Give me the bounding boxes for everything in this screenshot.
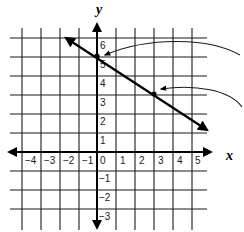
- x-tick-labels: −4 −3 −2 −1 0 1 2 3 4 5: [25, 155, 201, 166]
- x-tick-label: 1: [120, 155, 126, 166]
- x-axis-title: x: [225, 148, 233, 163]
- plotted-line: [66, 38, 207, 130]
- y-tick-label: 6: [100, 40, 106, 51]
- point-on-line: [151, 91, 156, 96]
- x-tick-label: 0: [100, 155, 106, 166]
- x-tick-label: −4: [25, 155, 37, 166]
- y-tick-label: 2: [100, 116, 106, 127]
- x-tick-label: 4: [177, 155, 183, 166]
- graph-svg: y x −4 −3 −2 −1 0 1 2 3 4 5 6 5 4 3 2 1 …: [0, 0, 244, 232]
- coordinate-plane-figure: y x −4 −3 −2 −1 0 1 2 3 4 5 6 5 4 3 2 1 …: [0, 0, 244, 232]
- x-tick-label: 5: [195, 155, 201, 166]
- x-tick-label: −2: [63, 155, 75, 166]
- y-tick-label: −1: [99, 173, 111, 184]
- x-tick-label: 2: [139, 155, 145, 166]
- y-tick-label: 3: [100, 97, 106, 108]
- y-tick-label: −3: [99, 211, 111, 222]
- x-tick-label: 3: [158, 155, 164, 166]
- point-y-intercept: [94, 53, 99, 58]
- x-tick-label: −3: [44, 155, 56, 166]
- y-tick-label: 1: [100, 135, 106, 146]
- y-axis-title: y: [94, 2, 103, 17]
- x-tick-label: −1: [82, 155, 94, 166]
- y-tick-label: −2: [99, 192, 111, 203]
- y-tick-label: 4: [100, 78, 106, 89]
